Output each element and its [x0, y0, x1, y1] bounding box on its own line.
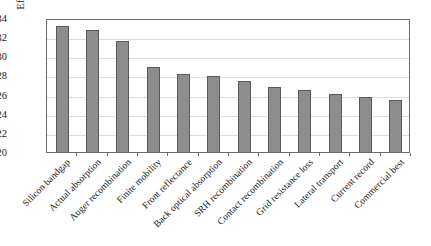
x-tick-mark: [76, 153, 77, 156]
gridline: [47, 77, 409, 78]
bar: [116, 41, 129, 152]
x-tick-mark: [349, 153, 350, 156]
bar: [268, 87, 281, 152]
y-tick-label: 22: [0, 129, 7, 139]
y-tick-label: 30: [0, 52, 7, 62]
x-tick-mark: [380, 153, 381, 156]
gridline: [47, 135, 409, 136]
y-axis-title: Efficiency (%): [14, 0, 28, 46]
bar: [329, 94, 342, 152]
bar: [207, 76, 220, 152]
x-tick-mark: [319, 153, 320, 156]
x-tick-mark: [228, 153, 229, 156]
y-tick-label: 24: [0, 110, 7, 120]
bar: [238, 81, 251, 152]
y-tick-label: 34: [0, 14, 7, 24]
gridline: [47, 39, 409, 40]
y-tick-label: 32: [0, 33, 7, 43]
x-tick-mark: [137, 153, 138, 156]
gridline: [47, 97, 409, 98]
gridline: [47, 58, 409, 59]
x-tick-mark: [167, 153, 168, 156]
plot-area: [46, 19, 410, 153]
gridline: [47, 116, 409, 117]
x-tick-mark: [410, 153, 411, 156]
efficiency-loss-bar-chart: Efficiency (%) 2022242628303234 Silicon …: [0, 0, 431, 246]
bar: [298, 90, 311, 152]
x-tick-mark: [107, 153, 108, 156]
bar: [389, 100, 402, 152]
x-tick-mark: [198, 153, 199, 156]
x-tick-mark: [258, 153, 259, 156]
bar: [147, 67, 160, 152]
bar: [359, 97, 372, 153]
y-tick-label: 28: [0, 71, 7, 81]
bar: [56, 26, 69, 152]
y-tick-label: 26: [0, 91, 7, 101]
y-tick-label: 20: [0, 148, 7, 158]
x-tick-mark: [289, 153, 290, 156]
bar: [177, 74, 190, 152]
bar: [86, 30, 99, 152]
